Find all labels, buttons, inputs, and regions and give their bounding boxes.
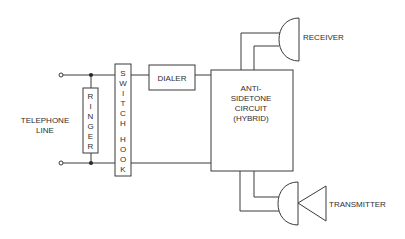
ringer-label: R I N G E R: [87, 92, 93, 151]
svg-text:C: C: [120, 109, 126, 118]
receiver-icon: [279, 18, 299, 61]
svg-text:I: I: [122, 89, 124, 98]
receiver-outer-wire: [241, 33, 281, 70]
svg-text:W: W: [119, 79, 127, 88]
svg-text:H: H: [120, 119, 126, 128]
transmitter-label: TRANSMITTER: [329, 200, 386, 209]
svg-text:E: E: [88, 132, 93, 141]
svg-text:N: N: [88, 112, 94, 121]
transmitter-inner-wire: [254, 171, 280, 197]
svg-text:CIRCUIT: CIRCUIT: [235, 104, 268, 113]
svg-text:R: R: [88, 142, 94, 151]
svg-text:LINE: LINE: [36, 126, 54, 135]
receiver-label: RECEIVER: [303, 33, 344, 42]
svg-text:ANTI-: ANTI-: [241, 84, 262, 93]
svg-text:H: H: [120, 135, 126, 144]
transmitter-icon: [278, 182, 298, 225]
svg-text:K: K: [120, 165, 126, 174]
terminal-bottom-icon: [59, 161, 63, 165]
dialer-label: DIALER: [158, 74, 187, 83]
svg-text:R: R: [88, 92, 94, 101]
svg-text:I: I: [89, 102, 91, 111]
svg-text:(HYBRID): (HYBRID): [233, 114, 269, 123]
svg-text:T: T: [121, 99, 126, 108]
telephone-line-label: TELEPHONE LINE: [21, 116, 69, 135]
svg-text:O: O: [120, 145, 126, 154]
svg-text:S: S: [120, 69, 125, 78]
receiver-inner-wire: [254, 46, 279, 70]
telephone-block-diagram: R I N G E R S W I T C H H O O K DIALER A…: [0, 0, 405, 239]
svg-text:G: G: [87, 122, 93, 131]
svg-text:O: O: [120, 155, 126, 164]
transmitter-outer-wire: [240, 171, 280, 211]
svg-text:TELEPHONE: TELEPHONE: [21, 116, 69, 125]
transmitter-cone-icon: [298, 186, 326, 221]
svg-text:SIDETONE: SIDETONE: [231, 94, 272, 103]
terminal-top-icon: [59, 73, 63, 77]
